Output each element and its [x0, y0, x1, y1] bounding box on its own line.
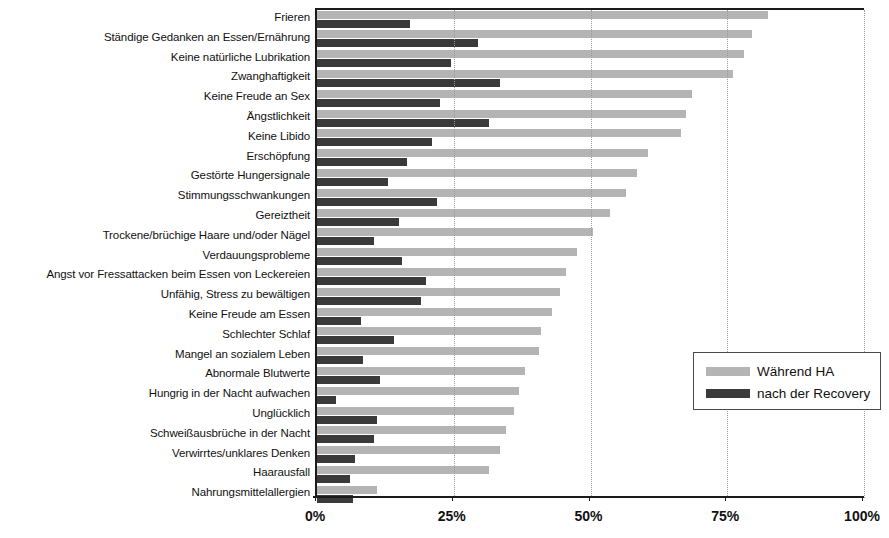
bar-waehrend-ha	[317, 228, 593, 236]
gridline	[591, 10, 592, 498]
category-label: Verwirrtes/unklares Denken	[0, 444, 313, 464]
x-tick-label: 50%	[574, 508, 602, 524]
bar-nach-der-recovery	[317, 277, 426, 285]
category-label: Frieren	[0, 8, 313, 28]
bar-nach-der-recovery	[317, 396, 336, 404]
bar-nach-der-recovery	[317, 20, 410, 28]
category-label: Abnormale Blutwerte	[0, 364, 313, 384]
bar-nach-der-recovery	[317, 376, 380, 384]
category-label: Haarausfall	[0, 463, 313, 483]
bar-waehrend-ha	[317, 407, 514, 415]
bar-nach-der-recovery	[317, 99, 440, 107]
bar-nach-der-recovery	[317, 198, 437, 206]
bar-waehrend-ha	[317, 466, 489, 474]
bar-nach-der-recovery	[317, 356, 363, 364]
gridline	[864, 10, 865, 498]
bar-nach-der-recovery	[317, 475, 350, 483]
bar-nach-der-recovery	[317, 435, 374, 443]
legend-swatch-dark	[706, 389, 750, 398]
category-label: Keine Freude am Essen	[0, 305, 313, 325]
bar-nach-der-recovery	[317, 158, 407, 166]
legend-label-nach-der-recovery: nach der Recovery	[757, 386, 870, 401]
x-tick-label: 25%	[438, 508, 466, 524]
category-label: Gestörte Hungersignale	[0, 166, 313, 186]
x-tick-label: 75%	[711, 508, 739, 524]
category-label: Schlechter Schlaf	[0, 325, 313, 345]
x-tick-mark	[725, 496, 726, 501]
category-label: Stimmungsschwankungen	[0, 186, 313, 206]
gridline	[727, 10, 728, 498]
x-tick-label: 0%	[305, 508, 325, 524]
bar-waehrend-ha	[317, 347, 539, 355]
bar-waehrend-ha	[317, 70, 733, 78]
category-label: Gereiztheit	[0, 206, 313, 226]
category-label: Ständige Gedanken an Essen/Ernährung	[0, 28, 313, 48]
legend-label-waehrend-ha: Während HA	[757, 364, 834, 379]
bar-nach-der-recovery	[317, 297, 421, 305]
bar-waehrend-ha	[317, 90, 692, 98]
category-label: Ängstlichkeit	[0, 107, 313, 127]
bar-nach-der-recovery	[317, 59, 451, 67]
x-tick-label: 100%	[844, 508, 880, 524]
plot-area	[315, 8, 864, 498]
category-label: Verdauungsprobleme	[0, 246, 313, 266]
bar-nach-der-recovery	[317, 138, 432, 146]
category-label: Keine Libido	[0, 127, 313, 147]
bar-nach-der-recovery	[317, 257, 402, 265]
bar-waehrend-ha	[317, 50, 744, 58]
category-axis-labels: FrierenStändige Gedanken an Essen/Ernähr…	[0, 8, 313, 503]
bar-waehrend-ha	[317, 209, 610, 217]
bar-waehrend-ha	[317, 11, 768, 19]
bar-nach-der-recovery	[317, 79, 500, 87]
bar-waehrend-ha	[317, 268, 566, 276]
x-tick-mark	[315, 496, 316, 501]
category-label: Zwanghaftigkeit	[0, 67, 313, 87]
gridline	[454, 10, 455, 498]
bar-waehrend-ha	[317, 288, 560, 296]
bar-waehrend-ha	[317, 426, 506, 434]
chart-legend: Während HA nach der Recovery	[693, 352, 881, 410]
x-tick-mark	[589, 496, 590, 501]
bar-nach-der-recovery	[317, 336, 394, 344]
bar-waehrend-ha	[317, 30, 752, 38]
bar-waehrend-ha	[317, 327, 541, 335]
x-tick-mark	[452, 496, 453, 501]
category-label: Unglücklich	[0, 404, 313, 424]
category-label: Trockene/brüchige Haare und/oder Nägel	[0, 226, 313, 246]
category-label: Mangel an sozialem Leben	[0, 345, 313, 365]
category-label: Hungrig in der Nacht aufwachen	[0, 384, 313, 404]
bar-nach-der-recovery	[317, 218, 399, 226]
bar-nach-der-recovery	[317, 317, 361, 325]
category-label: Keine Freude an Sex	[0, 87, 313, 107]
category-label: Angst vor Fressattacken beim Essen von L…	[0, 265, 313, 285]
bar-waehrend-ha	[317, 110, 686, 118]
bar-nach-der-recovery	[317, 416, 377, 424]
category-label: Unfähig, Stress zu bewältigen	[0, 285, 313, 305]
bar-waehrend-ha	[317, 169, 637, 177]
bar-waehrend-ha	[317, 486, 377, 494]
category-label: Nahrungsmittelallergien	[0, 483, 313, 503]
x-tick-mark	[862, 496, 863, 501]
bar-nach-der-recovery	[317, 119, 489, 127]
bar-waehrend-ha	[317, 129, 681, 137]
bar-nach-der-recovery	[317, 178, 388, 186]
category-label: Keine natürliche Lubrikation	[0, 48, 313, 68]
bar-waehrend-ha	[317, 149, 648, 157]
legend-item-waehrend-ha: Während HA	[706, 360, 880, 382]
bar-waehrend-ha	[317, 189, 626, 197]
bar-waehrend-ha	[317, 308, 552, 316]
bar-waehrend-ha	[317, 248, 577, 256]
legend-swatch-light	[706, 367, 750, 376]
category-label: Schweißausbrüche in der Nacht	[0, 424, 313, 444]
category-label: Erschöpfung	[0, 147, 313, 167]
bar-waehrend-ha	[317, 367, 525, 375]
bar-waehrend-ha	[317, 446, 500, 454]
legend-item-nach-der-recovery: nach der Recovery	[706, 382, 880, 404]
bar-waehrend-ha	[317, 387, 519, 395]
bar-nach-der-recovery	[317, 455, 355, 463]
bar-nach-der-recovery	[317, 237, 374, 245]
horizontal-bar-chart: FrierenStändige Gedanken an Essen/Ernähr…	[0, 0, 889, 538]
